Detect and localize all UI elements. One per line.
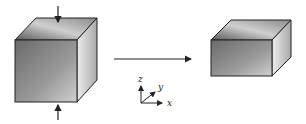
deformation-diagram: z y x bbox=[0, 0, 306, 124]
coordinate-axes: z y x bbox=[137, 74, 172, 108]
z-axis-label: z bbox=[137, 74, 143, 84]
x-axis-label: x bbox=[167, 98, 172, 108]
y-axis-label: y bbox=[157, 82, 164, 92]
cube-front-face bbox=[15, 40, 77, 102]
cube-original bbox=[15, 18, 97, 102]
box-deformed bbox=[211, 20, 291, 76]
y-axis-icon bbox=[141, 92, 155, 103]
box-front-face bbox=[211, 40, 272, 76]
